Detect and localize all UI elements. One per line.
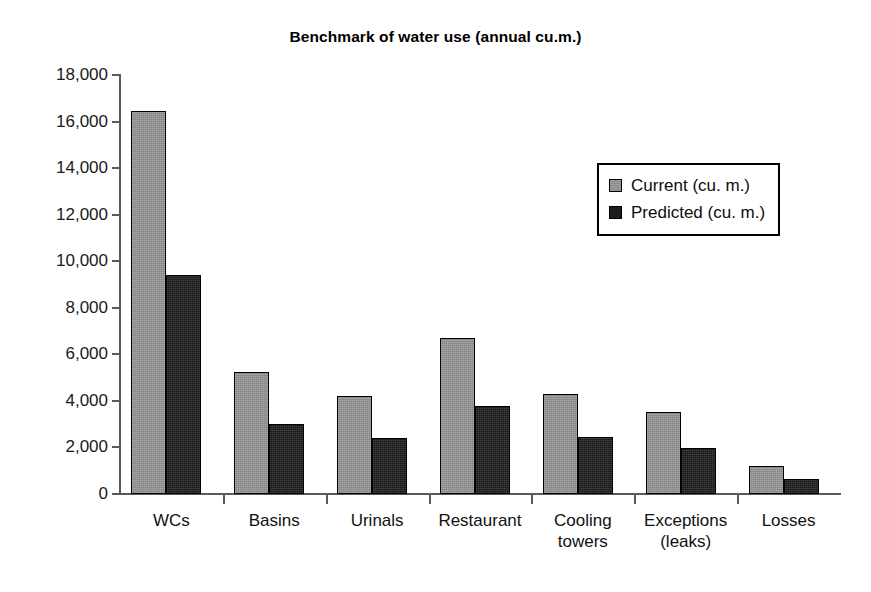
bar-urinals-predicted — [372, 438, 407, 494]
bar-chart-figure: Benchmark of water use (annual cu.m.) 18… — [0, 0, 871, 592]
legend-item-label: Current (cu. m.) — [631, 177, 750, 194]
x-category-label-line: Urinals — [326, 510, 429, 531]
x-category-label-line: (leaks) — [634, 531, 737, 552]
x-tick-mark — [223, 495, 225, 504]
y-tick-label: 12,000 — [8, 206, 108, 223]
x-category-label-line: Exceptions — [634, 510, 737, 531]
y-tick-label: 16,000 — [8, 113, 108, 130]
bar-cooling-towers-current — [543, 394, 578, 494]
bar-restaurant-current — [440, 338, 475, 494]
x-category-label-line: Restaurant — [429, 510, 532, 531]
legend-item-predicted[interactable]: Predicted (cu. m.) — [609, 199, 765, 226]
legend-swatch-predicted-icon — [609, 206, 622, 219]
bar-exceptions-leaks-current — [646, 412, 681, 494]
x-category-label: Losses — [737, 510, 840, 531]
x-category-label-line: Losses — [737, 510, 840, 531]
y-tick-label: 18,000 — [8, 66, 108, 83]
y-tick-label: 4,000 — [8, 392, 108, 409]
x-category-label-line: Basins — [223, 510, 326, 531]
bar-losses-predicted — [784, 479, 819, 494]
x-tick-mark — [531, 495, 533, 504]
legend-item-current[interactable]: Current (cu. m.) — [609, 172, 765, 199]
x-tick-mark — [326, 495, 328, 504]
legend-item-label: Predicted (cu. m.) — [631, 204, 765, 221]
bar-basins-current — [234, 372, 269, 494]
y-tick-label: 0 — [8, 485, 108, 502]
bar-basins-predicted — [269, 424, 304, 494]
x-tick-mark — [429, 495, 431, 504]
bar-losses-current — [749, 466, 784, 494]
chart-legend: Current (cu. m.)Predicted (cu. m.) — [597, 163, 780, 236]
x-category-label-line: Cooling — [531, 510, 634, 531]
x-category-label: Basins — [223, 510, 326, 531]
y-tick-label: 10,000 — [8, 252, 108, 269]
x-category-label: Restaurant — [429, 510, 532, 531]
chart-title: Benchmark of water use (annual cu.m.) — [0, 28, 871, 46]
x-category-label: Exceptions(leaks) — [634, 510, 737, 552]
x-category-label: WCs — [120, 510, 223, 531]
legend-swatch-current-icon — [609, 179, 622, 192]
bar-exceptions-leaks-predicted — [681, 448, 716, 494]
x-category-label: Urinals — [326, 510, 429, 531]
y-axis-tick-labels: 18,00016,00014,00012,00010,0008,0006,000… — [0, 0, 108, 592]
x-category-label: Coolingtowers — [531, 510, 634, 552]
x-tick-mark — [737, 495, 739, 504]
y-tick-label: 14,000 — [8, 159, 108, 176]
bar-wcs-predicted — [166, 275, 201, 494]
bar-urinals-current — [337, 396, 372, 494]
bar-cooling-towers-predicted — [578, 437, 613, 494]
bar-wcs-current — [131, 111, 166, 494]
x-category-label-line: towers — [531, 531, 634, 552]
y-tick-label: 8,000 — [8, 299, 108, 316]
bar-restaurant-predicted — [475, 406, 510, 494]
y-tick-label: 2,000 — [8, 438, 108, 455]
y-tick-label: 6,000 — [8, 345, 108, 362]
x-category-label-line: WCs — [120, 510, 223, 531]
x-tick-mark — [634, 495, 636, 504]
plot-area — [120, 75, 840, 494]
